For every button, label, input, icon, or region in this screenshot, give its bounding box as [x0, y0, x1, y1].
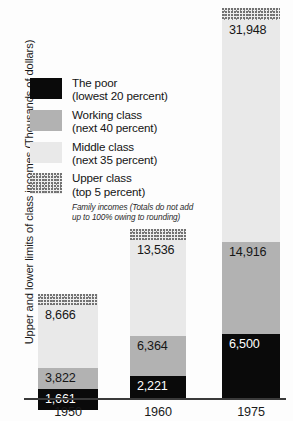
x-tick-1960: 1960 — [128, 405, 188, 419]
segment-working-1960: 6,364 — [130, 336, 186, 376]
x-axis-line — [24, 398, 286, 400]
value-label-middle-1960: 13,536 — [137, 244, 174, 257]
bar-column-1950[interactable]: 8,666 3,822 1,661 — [38, 294, 98, 399]
segment-upper-1950 — [38, 294, 98, 305]
segment-middle-1950: 8,666 — [38, 305, 98, 368]
value-label-working-1960: 6,364 — [137, 340, 168, 353]
chart-legend: The poor (lowest 20 percent) Working cla… — [30, 76, 190, 223]
stacked-bar-chart: Upper and lower limits of class incomes … — [0, 0, 293, 421]
segment-working-1975: 14,916 — [222, 242, 280, 334]
segment-poor-1975: 6,500 — [222, 334, 280, 399]
legend-label-working-line2: (next 40 percent) — [72, 121, 157, 134]
legend-label-middle: Middle class (next 35 percent) — [72, 140, 157, 167]
swatch-upper-icon — [30, 173, 62, 194]
x-tick-1975: 1975 — [221, 405, 281, 419]
segment-poor-1960: 2,221 — [130, 376, 186, 399]
legend-label-poor: The poor (lowest 20 percent) — [72, 76, 168, 103]
swatch-working-icon — [30, 110, 62, 131]
legend-item-poor[interactable]: The poor (lowest 20 percent) — [30, 76, 190, 103]
segment-middle-1975: 31,948 — [222, 20, 280, 242]
segment-working-1950: 3,822 — [38, 368, 98, 389]
value-label-working-1950: 3,822 — [45, 372, 76, 385]
segment-middle-1960: 13,536 — [130, 240, 186, 336]
swatch-middle-icon — [30, 142, 62, 163]
bar-column-1975[interactable]: 31,948 14,916 6,500 — [222, 8, 280, 399]
value-label-poor-1975: 6,500 — [229, 338, 260, 351]
value-label-poor-1960: 2,221 — [137, 380, 168, 393]
legend-label-upper: Upper class (top 5 percent) — [72, 171, 145, 198]
legend-label-upper-line2: (top 5 percent) — [72, 185, 145, 198]
legend-label-middle-line1: Middle class — [72, 140, 134, 153]
value-label-middle-1950: 8,666 — [45, 309, 76, 322]
legend-label-working-line1: Working class — [72, 108, 142, 121]
legend-item-upper[interactable]: Upper class (top 5 percent) — [30, 171, 190, 198]
legend-item-middle[interactable]: Middle class (next 35 percent) — [30, 140, 190, 167]
legend-footnote: Family incomes (Totals do not add up to … — [72, 203, 202, 223]
value-label-middle-1975: 31,948 — [229, 24, 266, 37]
x-tick-1950: 1950 — [38, 405, 98, 419]
legend-label-upper-line1: Upper class — [72, 171, 132, 184]
bar-column-1960[interactable]: 13,536 6,364 2,221 — [130, 229, 186, 399]
legend-label-poor-line2: (lowest 20 percent) — [72, 89, 168, 102]
legend-label-working: Working class (next 40 percent) — [72, 108, 157, 135]
segment-upper-1975 — [222, 8, 280, 20]
legend-label-middle-line2: (next 35 percent) — [72, 153, 157, 166]
value-label-working-1975: 14,916 — [229, 246, 266, 259]
swatch-poor-icon — [30, 78, 62, 99]
legend-item-working[interactable]: Working class (next 40 percent) — [30, 108, 190, 135]
legend-label-poor-line1: The poor — [72, 76, 117, 89]
segment-upper-1960 — [130, 229, 186, 240]
